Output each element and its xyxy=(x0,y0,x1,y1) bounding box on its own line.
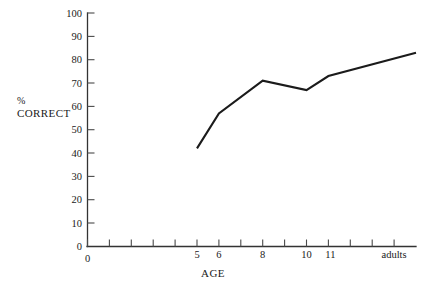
ytick-label-0: 0 xyxy=(77,241,82,252)
ytick-label-20: 20 xyxy=(72,194,83,205)
ytick-label-70: 70 xyxy=(72,78,83,89)
ytick-label-80: 80 xyxy=(72,54,83,65)
line-chart: 0 10 20 30 40 50 60 70 80 90 100 xyxy=(0,0,425,293)
xtick-label-adults: adults xyxy=(382,249,407,260)
ytick-label-100: 100 xyxy=(66,8,82,19)
xtick-label-10: 10 xyxy=(301,249,312,260)
y-axis-title-percent-symbol: % xyxy=(17,95,26,106)
xtick-label-8: 8 xyxy=(260,249,265,260)
ytick-label-30: 30 xyxy=(72,171,83,182)
xtick-label-11: 11 xyxy=(325,249,335,260)
xtick-label-6: 6 xyxy=(216,249,221,260)
ytick-label-40: 40 xyxy=(72,148,83,159)
ytick-label-90: 90 xyxy=(72,31,83,42)
chart-figure: 0 10 20 30 40 50 60 70 80 90 100 xyxy=(0,0,425,293)
xtick-label-0: 0 xyxy=(85,253,90,264)
ytick-label-50: 50 xyxy=(72,124,83,135)
y-axis-title-correct: CORRECT xyxy=(17,107,71,119)
chart-background xyxy=(0,0,425,293)
ytick-label-10: 10 xyxy=(72,218,83,229)
ytick-label-60: 60 xyxy=(72,101,83,112)
x-axis-title: AGE xyxy=(201,267,225,279)
xtick-label-5: 5 xyxy=(194,249,199,260)
